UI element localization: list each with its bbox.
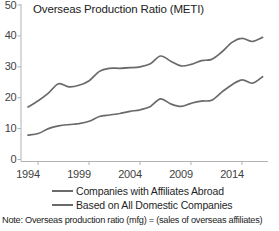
line-chart-plot: 0102030405019941999200420092014: [0, 0, 279, 182]
y-tick-label: 20: [5, 91, 17, 103]
legend-line-swatch: [52, 190, 73, 192]
legend-item: Companies with Affiliates Abroad: [52, 184, 232, 198]
x-tick-label: 2004: [118, 168, 142, 180]
legend-label: Based on All Domestic Companies: [76, 199, 232, 211]
x-tick-label: 2009: [169, 168, 193, 180]
legend-label: Companies with Affiliates Abroad: [76, 185, 224, 197]
y-tick-label: 30: [5, 60, 17, 72]
y-tick-label: 10: [5, 122, 17, 134]
y-tick-label: 0: [11, 153, 17, 165]
x-tick-label: 2014: [220, 168, 244, 180]
legend-line-swatch: [52, 204, 73, 206]
axes: [21, 4, 268, 162]
chart-card: Overseas Production Ratio (METI) 0102030…: [0, 0, 279, 231]
x-tick-label: 1994: [16, 168, 40, 180]
y-tick-label: 40: [5, 29, 17, 41]
legend: Companies with Affiliates Abroad Based o…: [52, 184, 232, 212]
x-tick-label: 1999: [67, 168, 91, 180]
y-tick-label: 50: [5, 0, 17, 11]
series-line-companies-with-affiliates-abroad: [28, 37, 263, 107]
note-text: Note: Overseas production ratio (mfg) = …: [2, 215, 278, 225]
legend-item: Based on All Domestic Companies: [52, 198, 232, 212]
